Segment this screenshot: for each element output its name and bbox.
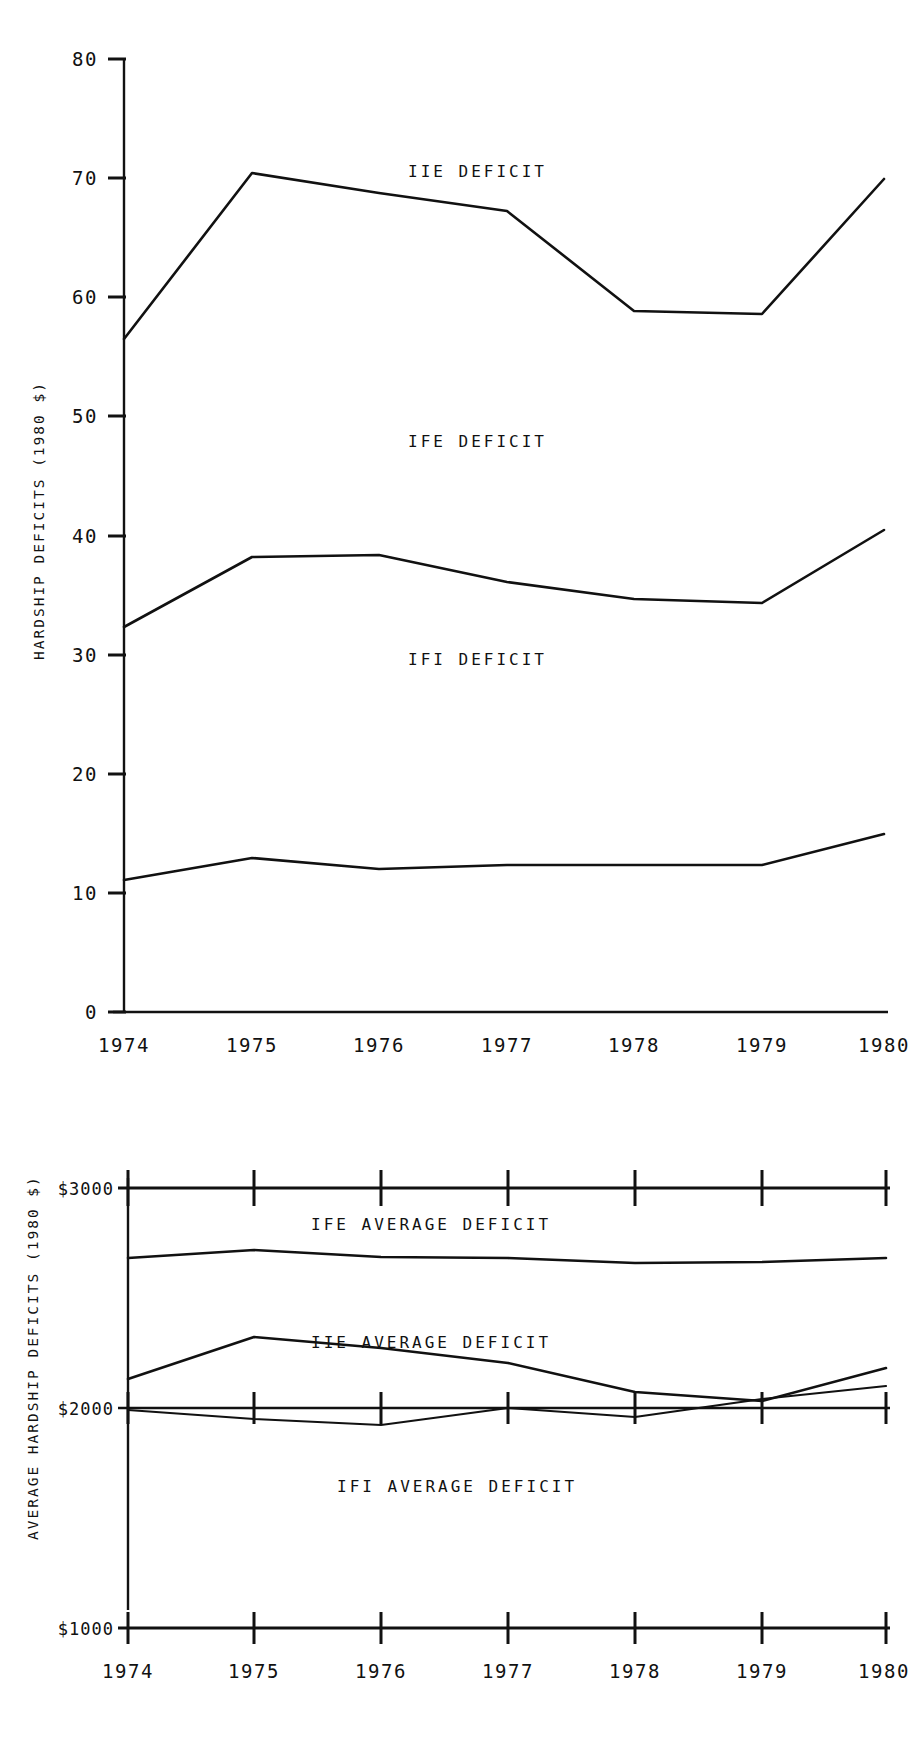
bottom-chart-y-tick-labels: $3000 $2000 $1000 (58, 1179, 114, 1639)
top-y-tick-40: 40 (72, 525, 98, 547)
hardship-deficits-line-chart: HARDSHIP DEFICITS (1980 $) 0 10 20 30 40… (0, 0, 912, 1080)
series-line-ifi-deficit (124, 834, 884, 880)
top-y-tick-30: 30 (72, 644, 98, 666)
bottom-x-tick-1977: 1977 (482, 1660, 534, 1682)
series-label-ife-deficit: IFE DEFICIT (408, 432, 547, 451)
average-hardship-deficits-line-chart: AVERAGE HARDSHIP DEFICITS (1980 $) (0, 1140, 912, 1760)
top-chart-y-axis-title: HARDSHIP DEFICITS (1980 $) (31, 381, 47, 660)
bottom-x-tick-1980: 1980 (858, 1660, 910, 1682)
series-label-iie-average-deficit: IIE AVERAGE DEFICIT (311, 1333, 551, 1352)
top-y-tick-70: 70 (72, 167, 98, 189)
top-chart-x-tick-labels: 1974 1975 1976 1977 1978 1979 1980 (98, 1034, 910, 1056)
bottom-x-tick-1975: 1975 (228, 1660, 280, 1682)
top-x-tick-1974: 1974 (98, 1034, 150, 1056)
bottom-x-tick-1979: 1979 (736, 1660, 788, 1682)
top-y-tick-10: 10 (72, 882, 98, 904)
bottom-y-tick-3000: $3000 (58, 1179, 114, 1199)
top-chart-y-tick-labels: 0 10 20 30 40 50 60 70 80 (72, 48, 98, 1023)
top-x-tick-1978: 1978 (608, 1034, 660, 1056)
series-line-ife-deficit (124, 530, 884, 627)
bottom-x-tick-1976: 1976 (355, 1660, 407, 1682)
top-x-tick-1976: 1976 (353, 1034, 405, 1056)
top-y-tick-80: 80 (72, 48, 98, 70)
bottom-chart-y-axis-title: AVERAGE HARDSHIP DEFICITS (1980 $) (25, 1175, 41, 1540)
series-label-ifi-average-deficit: IFI AVERAGE DEFICIT (337, 1477, 577, 1496)
series-line-ife-average-deficit (128, 1250, 886, 1263)
bottom-x-tick-1978: 1978 (609, 1660, 661, 1682)
bottom-y-tick-2000: $2000 (58, 1399, 114, 1419)
top-y-tick-0: 0 (85, 1001, 98, 1023)
series-label-iie-deficit: IIE DEFICIT (408, 162, 547, 181)
bottom-x-tick-1974: 1974 (102, 1660, 154, 1682)
series-line-iie-deficit (124, 173, 884, 339)
top-y-tick-20: 20 (72, 763, 98, 785)
top-y-tick-50: 50 (72, 405, 98, 427)
figure-container: HARDSHIP DEFICITS (1980 $) 0 10 20 30 40… (0, 0, 912, 1760)
bottom-chart-x-tick-labels: 1974 1975 1976 1977 1978 1979 1980 (102, 1660, 910, 1682)
series-label-ifi-deficit: IFI DEFICIT (408, 650, 547, 669)
top-x-tick-1975: 1975 (226, 1034, 278, 1056)
top-x-tick-1979: 1979 (736, 1034, 788, 1056)
top-y-tick-60: 60 (72, 286, 98, 308)
top-x-tick-1980: 1980 (858, 1034, 910, 1056)
series-label-ife-average-deficit: IFE AVERAGE DEFICIT (311, 1215, 551, 1234)
bottom-y-tick-1000: $1000 (58, 1619, 114, 1639)
top-x-tick-1977: 1977 (481, 1034, 533, 1056)
